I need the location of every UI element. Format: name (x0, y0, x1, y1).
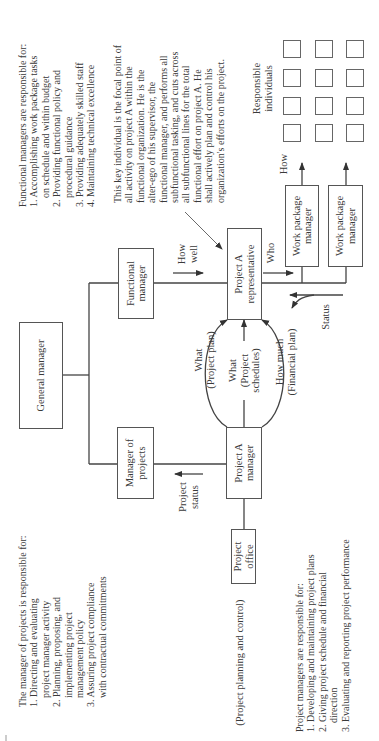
functional-manager-label-1: Functional (125, 261, 137, 306)
work-package-manager-label-1: Work package (291, 196, 303, 256)
manager-of-projects-label-1: Manager of (124, 439, 136, 488)
responsible-individual-cell (346, 40, 364, 58)
note-line: functional manager, and performs all (158, 45, 169, 203)
note-line: subfunctional tasking, and cuts across (169, 45, 180, 203)
how-well-label-2: well (188, 241, 200, 267)
responsible-individual-cell (315, 124, 333, 142)
responsible-individual-cell (283, 69, 301, 87)
note-line: 3. Providing adequately skilled staff (74, 44, 85, 207)
note-line: 1. Developing and maintaining project pl… (305, 539, 316, 732)
what-project-schedules-label-1: What (227, 341, 239, 400)
note-line: 3. Evaluating and reporting project perf… (340, 539, 351, 732)
responsible-individuals-label-2: individuals (263, 62, 275, 115)
functional-managers-note: Functional managers are responsible for:… (17, 44, 97, 207)
project-office-label-1: Project (232, 542, 244, 572)
how-much-financial-plan-label-1: How much (274, 312, 286, 412)
responsible-individuals-label: Responsible individuals (251, 62, 274, 115)
status-label: Status (320, 300, 332, 334)
note-line: implementing project (63, 535, 74, 707)
page-number-fragment (5, 735, 17, 741)
work-package-manager-box: Work package manager (328, 185, 363, 267)
responsible-individual-cell (315, 69, 333, 87)
note-line: procedural guidance (63, 44, 74, 207)
note-line: 2. Giving project schedule and financial (317, 539, 328, 732)
manager-of-projects-note: The manager of projects is responsible f… (17, 535, 108, 707)
responsible-individuals-label-1: Responsible (251, 62, 263, 115)
note-line: shall actively plan and control his (203, 45, 214, 203)
note-line: organization's efforts on the project. (215, 45, 226, 203)
responsible-individual-cell (283, 97, 301, 115)
project-office-label-2: office (244, 542, 256, 572)
project-a-manager-label-1: Project A (233, 443, 245, 482)
note-line: management policy (74, 535, 85, 707)
project-a-manager-box: Project A manager (226, 427, 262, 499)
work-package-manager-label-1: Work package (334, 196, 346, 256)
note-line: 2. Providing functional policy and (51, 44, 62, 207)
project-office-box: Project office (231, 529, 256, 584)
note-heading: The manager of projects is responsible f… (17, 535, 28, 707)
project-status-label-2: status (189, 481, 201, 513)
work-package-manager-box: Work package manager (285, 185, 319, 267)
note-line: with contractual commitments (97, 535, 108, 707)
note-line: 3. Assuring project compliance (85, 535, 96, 707)
what-project-plan-label-1: What (193, 315, 205, 405)
what-project-schedules-label-3: schedules) (250, 341, 262, 400)
functional-manager-box: Functional manager (118, 248, 154, 319)
how-well-label: How well (176, 241, 199, 267)
note-line: 1. Directing and evaluating (28, 535, 39, 707)
work-package-manager-label-2: manager (302, 196, 314, 256)
project-planning-and-control-label: (Project planning and control) (234, 593, 246, 732)
project-a-representative-box: Project A representative (227, 228, 262, 320)
how-well-label-1: How (176, 241, 188, 267)
general-manager-label: General manager (35, 340, 47, 412)
who-label: Who (265, 242, 277, 264)
project-managers-note: Project managers are responsible for: 1.… (294, 539, 351, 732)
how-much-financial-plan-label-2: (Financial plan) (286, 312, 298, 412)
note-line: all activity on project A within the (123, 45, 134, 203)
work-package-manager-label-2: manager (346, 196, 358, 256)
note-heading: Project managers are responsible for: (294, 539, 305, 732)
note-line: functional organization. He is the (135, 45, 146, 203)
manager-of-projects-label-2: projects (136, 439, 148, 488)
project-status-label-1: Project (177, 481, 189, 513)
general-manager-box: General manager (19, 322, 63, 429)
note-line: alter-ego of his supervisor, the (146, 45, 157, 203)
responsible-individual-cell (346, 124, 364, 142)
manager-of-projects-box: Manager of projects (117, 427, 154, 499)
note-line: This key individual is the focal point o… (112, 45, 123, 203)
responsible-individual-cell (283, 124, 301, 142)
note-line: 2. Planning, proposing, and (51, 535, 62, 707)
responsible-individual-cell (346, 69, 364, 87)
responsible-individual-cell (315, 97, 333, 115)
what-project-plan-label: What (Project plan) (193, 315, 216, 405)
project-organization-diagram: General manager Functional manager Manag… (0, 0, 379, 741)
note-line: 4. Maintaining technical excellence (85, 44, 96, 207)
project-a-manager-label-2: manager (244, 443, 256, 482)
responsible-individual-cell (283, 40, 301, 58)
responsible-individual-cell (346, 97, 364, 115)
project-status-label: Project status (177, 481, 200, 513)
responsible-individual-cell (315, 40, 333, 58)
what-project-schedules-label: What (Project schedules) (227, 341, 262, 400)
how-much-financial-plan-label: How much (Financial plan) (274, 312, 297, 412)
note-line: all subfunctional lines for the total (180, 45, 191, 203)
note-line: 1. Accomplishing work package tasks (28, 44, 39, 207)
note-line: on schedule and within budget (40, 44, 51, 207)
project-a-representative-label-2: representative (245, 245, 257, 304)
what-project-schedules-label-2: (Project (239, 341, 251, 400)
what-project-plan-label-2: (Project plan) (205, 315, 217, 405)
project-a-representative-label-1: Project A (233, 245, 245, 304)
note-line: direction (328, 539, 339, 732)
note-heading: Functional managers are responsible for: (17, 44, 28, 207)
key-individual-note: This key individual is the focal point o… (112, 45, 226, 203)
note-line: functional effort on project A. He (192, 45, 203, 203)
note-line: project manager activity (40, 535, 51, 707)
functional-manager-label-2: manager (136, 261, 148, 306)
how-label: How (278, 153, 290, 175)
